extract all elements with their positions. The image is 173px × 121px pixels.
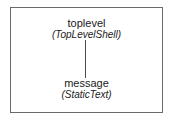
node-class-label: (TopLevelShell)	[0, 30, 173, 40]
node-class-label: (StaticText)	[0, 90, 173, 100]
node-name: toplevel	[0, 18, 173, 29]
edge-toplevel-message	[85, 40, 86, 78]
node-toplevel: toplevel (TopLevelShell)	[0, 18, 173, 40]
node-name: message	[0, 78, 173, 89]
node-message: message (StaticText)	[0, 78, 173, 100]
